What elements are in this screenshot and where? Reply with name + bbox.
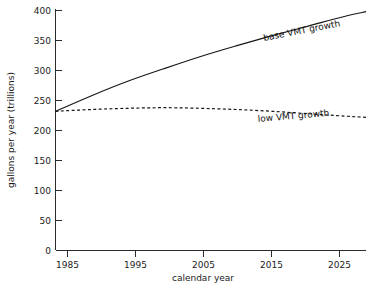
y-tick-label-350: 350 bbox=[34, 36, 51, 46]
y-axis-ticks bbox=[56, 11, 62, 251]
y-tick-label-100: 100 bbox=[34, 186, 51, 196]
y-axis-tick-labels: 400 350 300 250 200 150 100 50 0 bbox=[34, 6, 51, 256]
x-axis-title: calendar year bbox=[172, 273, 234, 283]
y-tick-label-400: 400 bbox=[34, 6, 51, 16]
y-tick-label-0: 0 bbox=[45, 246, 51, 256]
series-label-base-vmt-growth: base VMT growth bbox=[262, 18, 340, 43]
y-tick-label-250: 250 bbox=[34, 96, 51, 106]
x-tick-label-2025: 2025 bbox=[328, 260, 351, 270]
x-tick-label-2005: 2005 bbox=[192, 260, 215, 270]
y-tick-label-150: 150 bbox=[34, 156, 51, 166]
y-tick-label-300: 300 bbox=[34, 66, 51, 76]
x-tick-label-2015: 2015 bbox=[260, 260, 283, 270]
series-label-low-vmt-growth: low VMT growth bbox=[257, 108, 329, 124]
y-axis-title: gallons per year (trillions) bbox=[6, 72, 16, 188]
chart-figure: 400 350 300 250 200 150 100 50 0 1985 19… bbox=[0, 0, 374, 290]
y-tick-label-200: 200 bbox=[34, 126, 51, 136]
x-tick-label-1995: 1995 bbox=[124, 260, 147, 270]
x-tick-label-1985: 1985 bbox=[56, 260, 79, 270]
x-axis-tick-labels: 1985 1995 2005 2015 2025 bbox=[56, 260, 351, 270]
line-chart: 400 350 300 250 200 150 100 50 0 1985 19… bbox=[0, 0, 374, 290]
y-tick-label-50: 50 bbox=[40, 216, 52, 226]
x-axis-ticks bbox=[68, 251, 340, 257]
